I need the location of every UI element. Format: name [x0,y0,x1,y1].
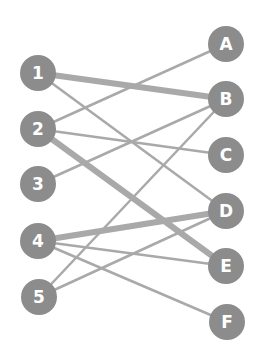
node-B: B [208,81,244,117]
node-label-C: C [220,145,232,165]
node-label-1: 1 [32,63,44,83]
node-E: E [208,248,244,284]
node-label-2: 2 [32,119,44,139]
node-label-B: B [220,89,233,109]
edge-3-B [38,99,226,184]
bipartite-graph: 12345ABCDEF [0,0,258,360]
node-C: C [208,137,244,173]
node-2: 2 [20,111,56,147]
node-A: A [208,26,244,62]
node-label-3: 3 [32,174,44,194]
edge-5-B [39,99,226,297]
node-1: 1 [20,55,56,91]
nodes-layer: 12345ABCDEF [20,26,245,340]
node-4: 4 [20,223,56,259]
node-5: 5 [21,279,57,315]
node-label-F: F [221,312,233,332]
edges-layer [38,44,227,322]
node-label-A: A [219,34,233,54]
node-label-5: 5 [33,287,45,307]
node-3: 3 [20,166,56,202]
node-label-D: D [219,201,233,221]
node-label-E: E [220,256,232,276]
node-F: F [209,304,245,340]
node-label-4: 4 [32,231,44,251]
node-D: D [208,193,244,229]
edge-4-D [38,211,226,241]
edge-2-A [38,44,226,129]
